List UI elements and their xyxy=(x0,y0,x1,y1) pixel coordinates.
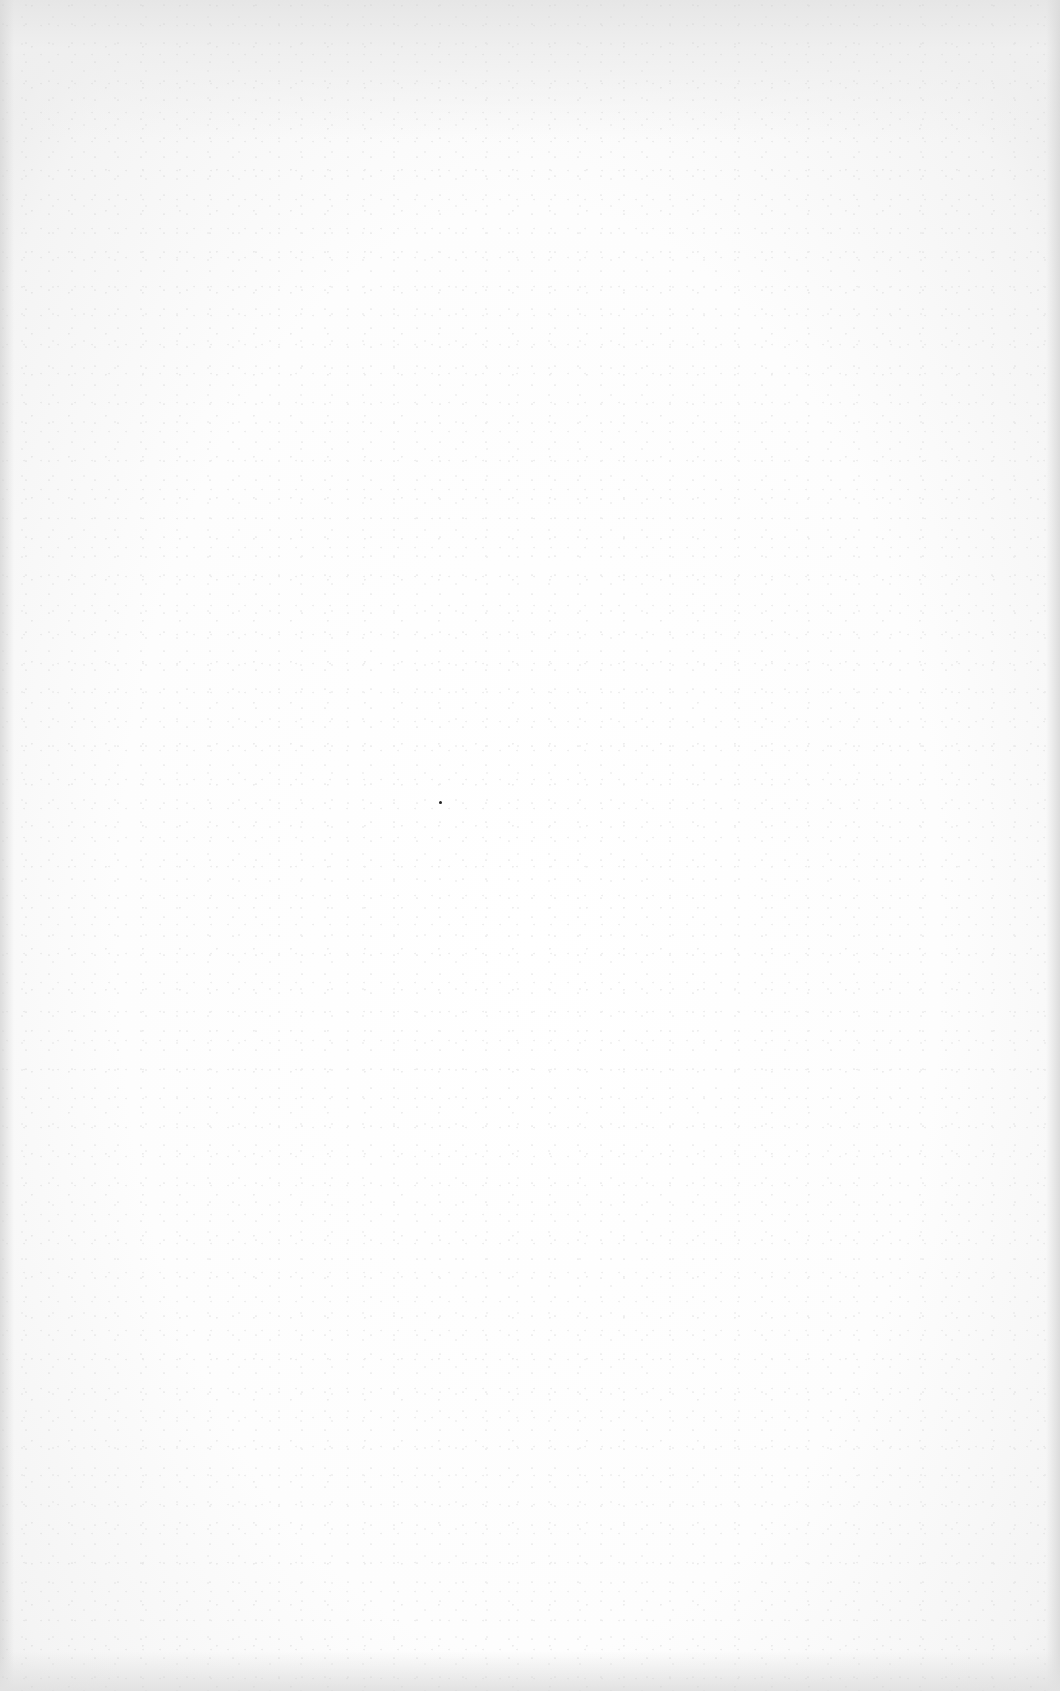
page-content xyxy=(0,0,1060,1691)
dust-speck xyxy=(439,801,442,804)
blank-document-page xyxy=(0,0,1060,1691)
